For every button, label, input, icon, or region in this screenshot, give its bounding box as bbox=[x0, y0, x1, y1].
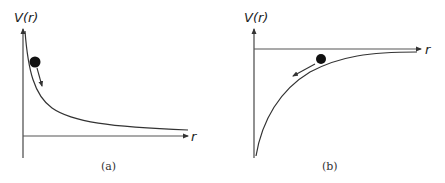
ball bbox=[30, 57, 41, 68]
potential-diagram: V(r) r (a) V(r) r (b) bbox=[0, 0, 445, 183]
panel-a: V(r) r (a) bbox=[14, 10, 198, 173]
y-axis-label: V(r) bbox=[14, 10, 38, 25]
motion-arrow bbox=[293, 64, 315, 76]
motion-arrow bbox=[37, 68, 42, 86]
panel-caption: (a) bbox=[101, 160, 116, 173]
x-axis-label: r bbox=[191, 129, 198, 144]
potential-curve bbox=[256, 52, 417, 156]
y-axis-label: V(r) bbox=[244, 10, 268, 25]
x-axis-label: r bbox=[425, 42, 432, 57]
potential-curve bbox=[25, 31, 188, 130]
panel-caption: (b) bbox=[322, 160, 338, 173]
ball bbox=[316, 54, 326, 64]
panel-b: V(r) r (b) bbox=[244, 10, 432, 173]
